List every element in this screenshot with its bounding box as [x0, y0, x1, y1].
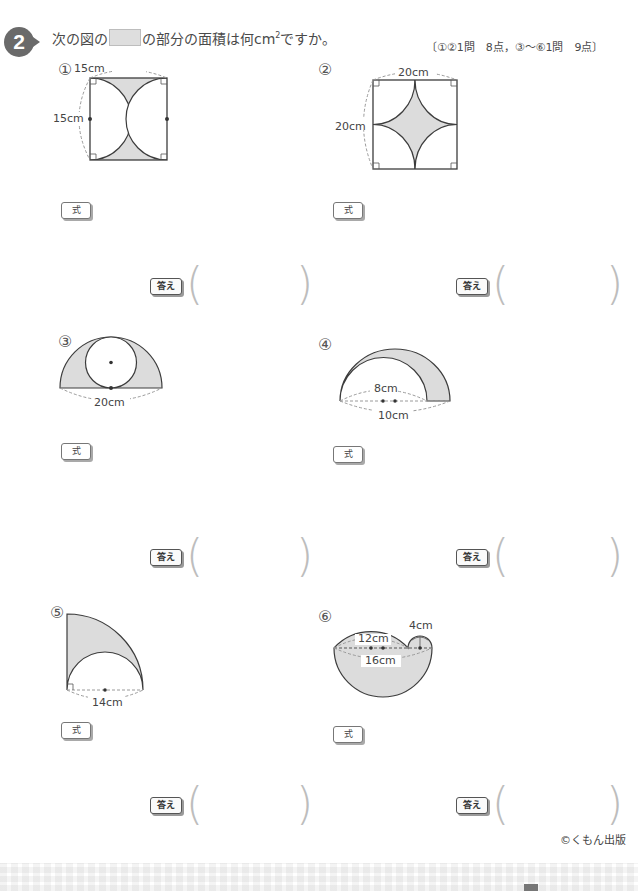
- formula-box-3[interactable]: 式: [61, 443, 91, 460]
- answer-label-3: 答え: [150, 549, 182, 566]
- shaded-swatch: [109, 29, 141, 46]
- answer-field-6[interactable]: [506, 788, 606, 824]
- figure-6-small-label: 4cm: [409, 619, 433, 632]
- answer-label-1: 答え: [150, 278, 182, 295]
- instruction-post: の部分の面積は何cm: [142, 31, 275, 47]
- instruction-pre: 次の図の: [52, 31, 108, 47]
- figure-4-inner-label: 8cm: [374, 382, 398, 395]
- answer-field-4[interactable]: [506, 540, 606, 576]
- answer-label-2: 答え: [456, 278, 488, 295]
- answer-paren-close-5: ): [296, 782, 313, 826]
- figure-2-height-label: 20cm: [335, 120, 366, 133]
- formula-box-1[interactable]: 式: [61, 202, 91, 219]
- figure-3: [50, 325, 220, 425]
- figure-4-outer-label: 10cm: [378, 409, 409, 422]
- instruction-end: ですか。: [280, 31, 336, 47]
- points-note: 〔①②1問 8点，③〜⑥1問 9点〕: [426, 38, 603, 54]
- figure-2-width-label: 20cm: [398, 66, 429, 79]
- figure-5-diameter-label: 14cm: [92, 696, 123, 709]
- answer-label-5: 答え: [150, 797, 182, 814]
- footer-pattern-strip: [0, 863, 638, 891]
- copyright: ©くもん出版: [560, 831, 626, 847]
- answer-label-6: 答え: [456, 797, 488, 814]
- answer-paren-close-1: ): [296, 262, 313, 306]
- formula-box-6[interactable]: 式: [333, 726, 363, 743]
- formula-box-5[interactable]: 式: [61, 722, 91, 739]
- answer-field-5[interactable]: [200, 788, 296, 824]
- answer-field-1[interactable]: [200, 268, 296, 304]
- figure-6-outer-label: 16cm: [365, 654, 396, 667]
- answer-field-3[interactable]: [200, 540, 296, 576]
- figure-3-diameter-label: 20cm: [94, 396, 125, 409]
- figure-1-width-label: 15cm: [74, 62, 105, 75]
- figure-6-middle-label: 12cm: [358, 632, 389, 645]
- answer-paren-close-2: ): [606, 262, 623, 306]
- instruction-text: 次の図のの部分の面積は何cm2ですか。: [52, 28, 336, 48]
- problem-number-badge: 2: [0, 22, 44, 62]
- formula-box-2[interactable]: 式: [333, 202, 363, 219]
- answer-paren-close-6: ): [606, 782, 623, 826]
- formula-box-4[interactable]: 式: [333, 446, 363, 463]
- answer-paren-close-3: ): [296, 534, 313, 578]
- answer-label-4: 答え: [456, 549, 488, 566]
- answer-field-2[interactable]: [506, 268, 606, 304]
- answer-paren-close-4: ): [606, 534, 623, 578]
- footer-tab-marker: [524, 884, 538, 891]
- figure-1-height-label: 15cm: [53, 112, 84, 125]
- svg-text:2: 2: [13, 30, 25, 53]
